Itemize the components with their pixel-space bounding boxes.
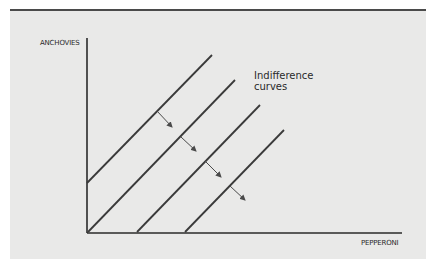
indifference-curve-2 <box>88 80 235 232</box>
arrow-icon-4 <box>230 186 245 200</box>
indifference-curve-1 <box>87 55 212 183</box>
annotation-line-1: Indifference <box>254 70 314 81</box>
x-axis-label: PEPPERONI <box>361 239 398 247</box>
preference-arrows <box>157 111 245 200</box>
arrow-icon-3 <box>205 161 221 177</box>
annotation-label: Indifference curves <box>254 70 314 92</box>
arrow-icon-2 <box>181 137 196 151</box>
annotation-line-2: curves <box>254 81 314 92</box>
y-axis-label: ANCHOVIES <box>40 39 79 47</box>
indifference-curve-3 <box>137 105 260 232</box>
indifference-curve-4 <box>185 130 284 232</box>
arrow-icon-1 <box>157 111 172 127</box>
